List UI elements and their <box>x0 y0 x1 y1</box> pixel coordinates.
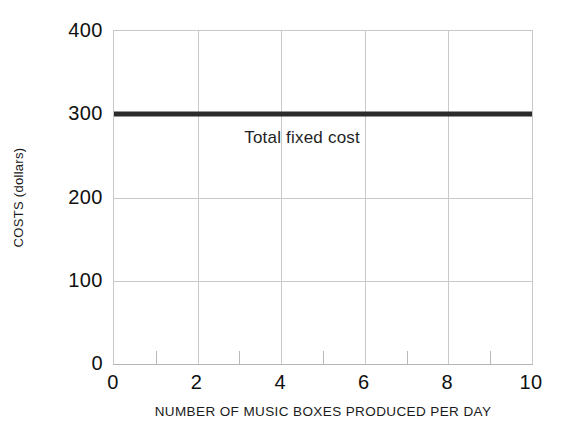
gridline-vertical <box>365 31 366 364</box>
gridline-horizontal <box>114 198 532 199</box>
x-axis-minor-tick <box>490 351 491 364</box>
y-axis-tick-label: 400 <box>68 19 103 42</box>
x-axis-tick-label: 8 <box>442 371 454 394</box>
x-axis-title: NUMBER OF MUSIC BOXES PRODUCED PER DAY <box>113 404 533 419</box>
x-axis-minor-tick <box>407 351 408 364</box>
gridline-vertical <box>198 31 199 364</box>
plot-area: Total fixed cost <box>113 30 533 365</box>
y-axis-tick-label: 100 <box>68 268 103 291</box>
series-line-total-fixed-cost <box>114 112 532 117</box>
gridline-vertical <box>448 31 449 364</box>
x-axis-tick-label: 0 <box>107 371 119 394</box>
x-axis-minor-tick <box>156 351 157 364</box>
y-axis-tick-label: 300 <box>68 102 103 125</box>
x-axis-tick-labels: 0246810 <box>113 371 533 397</box>
x-axis-tick-label: 6 <box>358 371 370 394</box>
x-axis-tick-label: 10 <box>519 371 542 394</box>
chart-figure: COSTS (dollars) 0100200300400 Total fixe… <box>0 0 575 439</box>
x-axis-minor-tick <box>239 351 240 364</box>
y-axis-tick-labels: 0100200300400 <box>0 30 103 365</box>
chart-annotation: Total fixed cost <box>244 128 360 148</box>
x-axis-tick-label: 2 <box>191 371 203 394</box>
gridline-horizontal <box>114 281 532 282</box>
x-axis-tick-label: 4 <box>274 371 286 394</box>
gridline-vertical <box>281 31 282 364</box>
y-axis-tick-label: 200 <box>68 185 103 208</box>
x-axis-minor-tick <box>323 351 324 364</box>
y-axis-tick-label: 0 <box>91 352 103 375</box>
